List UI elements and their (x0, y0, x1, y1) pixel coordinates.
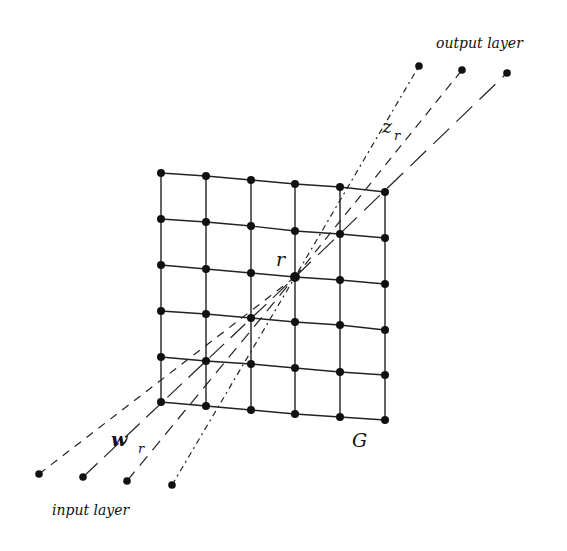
grid-node (247, 222, 255, 230)
input-connection-line (172, 277, 295, 485)
output-connection-line (295, 66, 419, 277)
grid-node (336, 321, 344, 329)
grid-row-line (161, 219, 385, 238)
grid-G-lines (161, 173, 385, 420)
grid-row-line (161, 402, 385, 420)
output-weight-label: z r (381, 115, 401, 143)
output-node (415, 62, 423, 70)
winner-node-label: r (276, 248, 287, 270)
grid-node (247, 176, 255, 184)
grid-node (291, 410, 299, 418)
grid-node (157, 307, 165, 315)
grid-node (336, 413, 344, 421)
grid-node (157, 398, 165, 406)
input-connections (39, 277, 295, 485)
grid-node (381, 280, 389, 288)
grid-row-line (161, 265, 385, 284)
grid-node (381, 416, 389, 424)
input-weight-label: w r (111, 428, 145, 456)
w-symbol: w (111, 428, 128, 450)
winner-node-r (290, 272, 300, 282)
grid-node (336, 230, 344, 238)
grid-node (202, 402, 210, 410)
grid-node (157, 261, 165, 269)
output-connections (295, 66, 507, 277)
input-connection-line (127, 277, 295, 481)
grid-label-G: G (352, 429, 367, 451)
grid-node (247, 360, 255, 368)
input-connection-line (39, 277, 295, 474)
output-node (503, 69, 511, 77)
grid-node (157, 169, 165, 177)
grid-node (157, 215, 165, 223)
grid-node (336, 368, 344, 376)
grid-node (202, 310, 210, 318)
grid-row-line (161, 311, 385, 330)
grid-node (247, 314, 255, 322)
z-subscript: r (394, 128, 401, 143)
grid-row-line (161, 173, 385, 192)
grid-node (247, 406, 255, 414)
input-node (35, 470, 43, 478)
input-node (123, 477, 131, 485)
som-diagram: output layer input layer G r z r w r (0, 0, 567, 551)
z-symbol: z (381, 115, 393, 137)
grid-node (291, 180, 299, 188)
grid-node (291, 227, 299, 235)
input-layer-label: input layer (52, 502, 131, 518)
grid-node (336, 276, 344, 284)
grid-node (381, 188, 389, 196)
output-connection-line (295, 73, 507, 277)
input-node (168, 481, 176, 489)
grid-node (247, 269, 255, 277)
grid-node (291, 318, 299, 326)
grid-node (291, 364, 299, 372)
output-layer-label: output layer (436, 35, 524, 51)
output-connection-line (295, 70, 462, 277)
grid-node (381, 326, 389, 334)
grid-G-nodes (157, 169, 389, 424)
output-node (458, 66, 466, 74)
grid-node (202, 357, 210, 365)
grid-node (381, 371, 389, 379)
grid-node (202, 265, 210, 273)
grid-node (202, 172, 210, 180)
grid-node (336, 183, 344, 191)
grid-node (381, 234, 389, 242)
w-subscript: r (138, 441, 145, 456)
grid-node (202, 218, 210, 226)
input-node (79, 473, 87, 481)
grid-node (157, 353, 165, 361)
